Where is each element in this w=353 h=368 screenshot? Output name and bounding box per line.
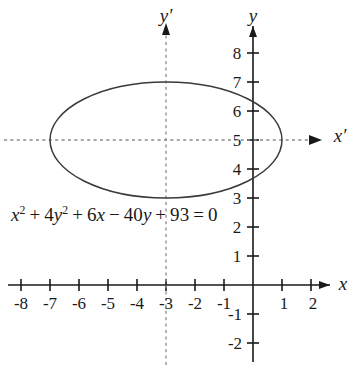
y-prime-axis	[162, 23, 170, 365]
equation-right-hand-side: 0	[208, 204, 218, 225]
y-tick-label-4: 4	[233, 161, 242, 178]
y-tick-label--2: -2	[228, 335, 242, 352]
equation-equals-sign: =	[189, 204, 208, 225]
coordinate-plot	[0, 0, 353, 368]
y-tick-label-3: 3	[233, 190, 242, 207]
y-tick-label-7: 7	[233, 74, 242, 91]
y-tick-label-2: 2	[233, 219, 242, 236]
equation-term-4-coefficient: 40	[124, 204, 143, 225]
x-tick-label--8: -8	[14, 295, 28, 312]
y-prime-axis-label: y′	[160, 6, 173, 25]
equation-term-3-coefficient: 6	[87, 204, 97, 225]
x-tick-label--7: -7	[43, 295, 57, 312]
y-tick-label--1: -1	[228, 306, 242, 323]
y-tick-label-5: 5	[233, 132, 242, 149]
y-tick-label-1: 1	[233, 248, 242, 265]
ellipse-figure: y′ y x′ x -8 -7 -6 -5 -4 -3 -2 -1 1 2 8 …	[0, 0, 353, 368]
y-axis	[247, 26, 259, 362]
y-tick-label-6: 6	[233, 103, 242, 120]
x-tick-label-2: 2	[309, 295, 318, 312]
equation-term-1-var: x	[11, 204, 20, 225]
x-prime-axis-label: x′	[334, 126, 347, 145]
x-tick-label--3: -3	[159, 295, 173, 312]
x-tick-label--2: -2	[188, 295, 202, 312]
y-tick-label-8: 8	[233, 45, 242, 62]
equation-annotation: x2 + 4y2 + 6x − 40y + 93 = 0	[11, 205, 218, 224]
equation-term-2-coefficient: 4	[44, 204, 54, 225]
x-tick-label--5: -5	[101, 295, 115, 312]
equation-operator-3: −	[105, 204, 124, 225]
equation-operator-2: +	[68, 204, 87, 225]
equation-operator-4: +	[151, 204, 170, 225]
x-axis	[8, 279, 330, 291]
equation-term-3-var: x	[97, 204, 106, 225]
equation-operator-1: +	[26, 204, 45, 225]
x-prime-axis	[4, 135, 322, 145]
equation-constant: 93	[170, 204, 189, 225]
x-axis-label: x	[339, 274, 347, 293]
x-tick-label--4: -4	[130, 295, 144, 312]
x-tick-label--6: -6	[72, 295, 86, 312]
x-tick-label-1: 1	[280, 295, 289, 312]
y-axis-label: y	[249, 6, 257, 25]
